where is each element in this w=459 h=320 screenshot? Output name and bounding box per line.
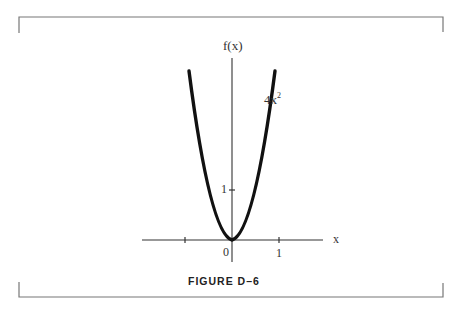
y-tick-label-1: 1 (221, 182, 227, 196)
curve-label: 4x2 (264, 91, 281, 107)
x-tick-label-1: 1 (276, 246, 282, 260)
frame-top (19, 17, 443, 33)
x-axis-label: x (333, 232, 339, 246)
figure-caption: FIGURE D–6 (188, 275, 260, 287)
y-axis-label: f(x) (223, 38, 243, 53)
origin-label: 0 (223, 245, 229, 259)
figure-canvas: f(x) x 0 1 1 4x2 FIGURE D–6 (0, 0, 459, 320)
